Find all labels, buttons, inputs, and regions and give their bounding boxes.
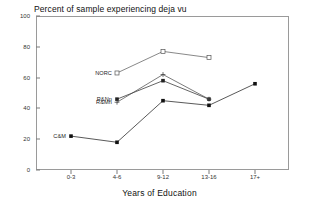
series-line <box>117 81 209 99</box>
chart-container: Percent of sample experiencing deja vu 0… <box>0 0 319 208</box>
data-point-marker <box>207 56 211 60</box>
series-layer <box>0 0 319 208</box>
data-point-marker <box>115 71 119 75</box>
series-label-r-mn: R&Mn <box>96 99 112 105</box>
data-point-marker <box>161 79 165 83</box>
data-point-marker <box>161 49 165 53</box>
data-point-marker <box>253 82 257 86</box>
data-point-marker <box>161 72 166 77</box>
series-line <box>71 84 255 143</box>
series-line <box>117 51 209 73</box>
data-point-marker <box>69 134 73 138</box>
series-label-c-m: C&M <box>53 133 66 139</box>
series-label-norc: NORC <box>95 70 112 76</box>
data-point-marker <box>207 104 211 108</box>
series-line <box>117 75 209 103</box>
data-point-marker <box>115 140 119 144</box>
x-axis-title: Years of Education <box>0 188 319 198</box>
data-point-marker <box>161 99 165 103</box>
